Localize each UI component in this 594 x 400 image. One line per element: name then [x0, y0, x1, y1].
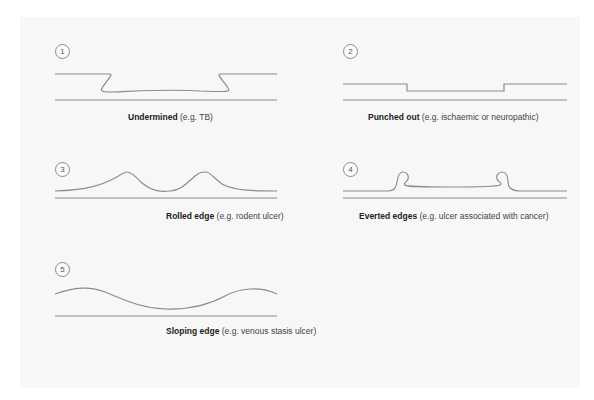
sloping-edge-drawing	[0, 0, 594, 400]
diagram-caption: Sloping edge (e.g. venous stasis ulcer)	[166, 326, 316, 336]
